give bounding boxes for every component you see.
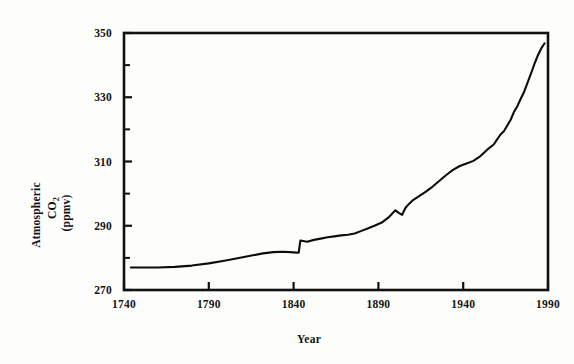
- series-line-atmospheric-co2: [131, 43, 545, 267]
- y-tick-label: 330: [94, 91, 112, 103]
- y-axis-title-co2-main: CO: [46, 201, 58, 219]
- y-axis-title-line3: (ppmv): [60, 195, 73, 232]
- y-axis-tick-labels: 270290310330350: [94, 27, 112, 296]
- x-axis-title: Year: [297, 333, 321, 345]
- x-tick-label: 1890: [366, 298, 390, 310]
- y-tick-label: 270: [94, 284, 112, 296]
- chart-figure: 270290310330350 174017901840189019401990…: [0, 0, 574, 364]
- co2-line-chart: 270290310330350 174017901840189019401990…: [0, 0, 574, 364]
- y-tick-label: 310: [94, 156, 112, 168]
- x-tick-label: 1790: [197, 298, 221, 310]
- y-tick-label: 290: [94, 220, 112, 232]
- y-tick-label: 350: [94, 27, 112, 39]
- x-axis-tick-labels: 174017901840189019401990: [112, 298, 560, 310]
- y-axis-title: Atmospheric CO2 (ppmv): [30, 182, 73, 247]
- x-tick-label: 1940: [451, 298, 475, 310]
- x-tick-label: 1990: [536, 298, 560, 310]
- x-tick-label: 1740: [112, 298, 136, 310]
- plot-frame: [124, 33, 548, 290]
- x-tick-label: 1840: [282, 298, 306, 310]
- y-axis-title-line1: Atmospheric: [30, 182, 43, 247]
- data-series-group: [131, 43, 545, 267]
- y-axis-title-line2: CO2: [46, 197, 61, 219]
